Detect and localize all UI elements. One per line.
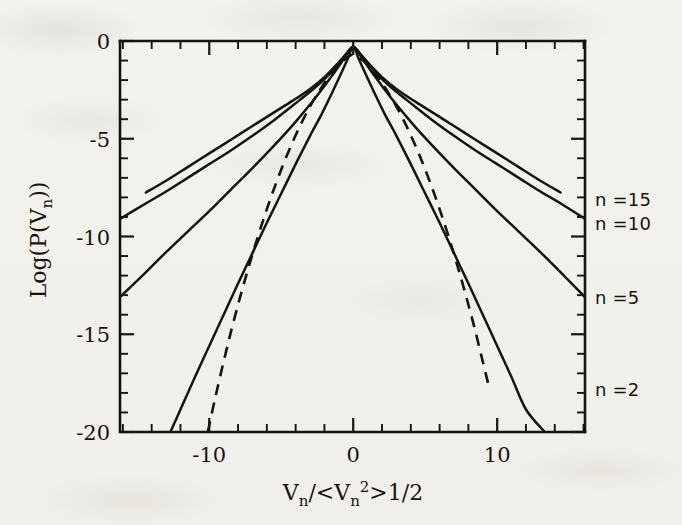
x-title-v2: V bbox=[333, 480, 351, 505]
y-tick-label: -20 bbox=[76, 421, 110, 445]
x-title-sup-2: 2 bbox=[360, 478, 370, 496]
x-title-sub-n2: n bbox=[350, 492, 360, 510]
x-title-sub-n1: n bbox=[299, 492, 309, 510]
data-curve-n-2 bbox=[170, 47, 544, 432]
series-label-n-15: n =15 bbox=[595, 189, 651, 210]
x-axis-title: Vn/<Vn2>1/2 bbox=[282, 478, 423, 510]
series-label-n-10: n =10 bbox=[595, 213, 651, 234]
x-title-slash: /< bbox=[308, 480, 334, 505]
y-axis-ticks-left bbox=[120, 41, 134, 432]
y-axis-title-close: )) bbox=[26, 182, 51, 199]
x-tick-label: -10 bbox=[192, 443, 226, 467]
series-label-n-5: n =5 bbox=[595, 287, 639, 308]
x-tick-label: 0 bbox=[347, 443, 360, 467]
x-axis-ticks-bottom bbox=[123, 418, 584, 432]
series-label-n-2: n =2 bbox=[595, 379, 639, 400]
plot-canvas: 0-5-10-15-20 -10010 n =15n =10n =5n =2 L… bbox=[0, 0, 682, 525]
data-curve-n-10 bbox=[120, 47, 585, 219]
y-tick-label: -10 bbox=[76, 226, 110, 250]
data-curves-group bbox=[120, 47, 585, 432]
x-axis-tick-labels: -10010 bbox=[192, 443, 510, 467]
svg-text:Log(P(Vn)): Log(P(Vn)) bbox=[26, 182, 56, 299]
y-tick-label: -5 bbox=[90, 128, 110, 152]
x-title-gt: > bbox=[369, 480, 387, 505]
x-tick-label: 10 bbox=[484, 443, 511, 467]
y-tick-label: 0 bbox=[97, 30, 110, 54]
data-curve-gaussian bbox=[208, 55, 489, 432]
data-curve-n-15 bbox=[146, 47, 561, 193]
svg-text:Vn/<Vn2>1/2: Vn/<Vn2>1/2 bbox=[282, 478, 423, 510]
axis-frame bbox=[120, 41, 585, 432]
y-axis-ticks-right bbox=[571, 41, 585, 432]
series-annotation-labels: n =15n =10n =5n =2 bbox=[595, 189, 651, 400]
y-axis-title-sub-n: n bbox=[38, 199, 56, 209]
x-title-v1: V bbox=[282, 480, 300, 505]
y-axis-title-main: Log(P(V bbox=[26, 207, 51, 298]
figure-root: 0-5-10-15-20 -10010 n =15n =10n =5n =2 L… bbox=[0, 0, 682, 525]
y-axis-title: Log(P(Vn)) bbox=[26, 182, 56, 299]
x-title-half: 1/2 bbox=[388, 480, 423, 505]
data-curve-n-5 bbox=[120, 47, 585, 297]
y-tick-label: -15 bbox=[76, 323, 110, 347]
y-axis-tick-labels: 0-5-10-15-20 bbox=[76, 30, 110, 445]
